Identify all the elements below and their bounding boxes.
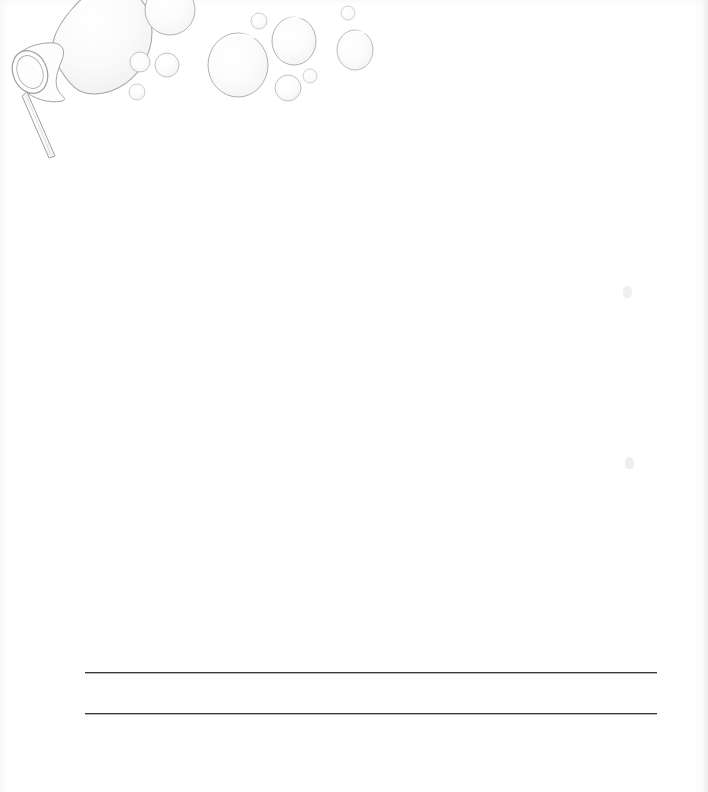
bubble-upper-right	[272, 17, 316, 65]
bubble-illustration-svg	[0, 0, 400, 200]
writing-line-1	[85, 672, 657, 673]
bubble-tiny-d	[303, 69, 317, 83]
bubble-small-a	[130, 52, 150, 72]
stationery-page	[0, 0, 708, 792]
bubble-center-large	[208, 33, 268, 97]
bubble-tiny-a	[129, 84, 145, 100]
bubble-tiny-b	[251, 13, 267, 29]
bubble-attached-to-wand	[52, 0, 152, 94]
writing-line-2	[85, 713, 657, 714]
bubble-right-mid	[337, 30, 373, 70]
soap-bubbles-group	[129, 0, 373, 101]
bubble-small-b	[155, 53, 179, 77]
bubble-wand-illustration	[0, 0, 400, 200]
scan-speck-mid-right	[625, 457, 634, 469]
bubble-small-c	[275, 75, 301, 101]
bubble-wand	[6, 43, 65, 158]
bubble-tiny-c	[341, 6, 355, 20]
scan-speck-upper-right	[623, 286, 632, 298]
